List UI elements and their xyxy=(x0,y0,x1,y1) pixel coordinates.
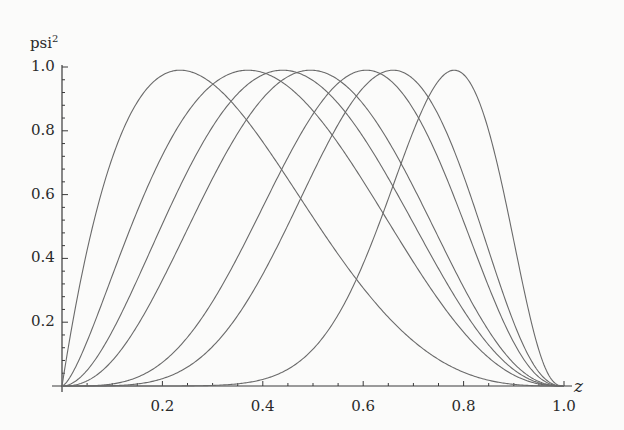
chart-figure: psi2 z 0.20.40.60.81.00.20.40.60.81.0 xyxy=(0,0,624,430)
y-axis-label: psi2 xyxy=(30,33,58,52)
curve-3 xyxy=(62,70,564,386)
curve-5 xyxy=(62,70,564,386)
x-axis-label: z xyxy=(574,376,583,396)
x-tick-label: 0.6 xyxy=(351,397,375,415)
plot-area xyxy=(0,0,624,430)
x-tick-label: 1.0 xyxy=(552,397,576,415)
x-tick-label: 0.2 xyxy=(150,397,174,415)
x-tick-label: 0.8 xyxy=(452,397,476,415)
x-tick-label: 0.4 xyxy=(251,397,275,415)
curves xyxy=(62,70,564,386)
curve-4 xyxy=(62,70,564,386)
y-tick-label: 0.4 xyxy=(31,248,55,266)
curve-6 xyxy=(62,70,564,386)
y-tick-label: 0.2 xyxy=(31,312,55,330)
curve-1 xyxy=(62,70,564,386)
curve-2 xyxy=(62,70,564,386)
y-tick-label: 0.8 xyxy=(31,121,55,139)
y-tick-label: 0.6 xyxy=(31,185,55,203)
y-tick-label: 1.0 xyxy=(31,57,55,75)
curve-7 xyxy=(62,70,564,386)
